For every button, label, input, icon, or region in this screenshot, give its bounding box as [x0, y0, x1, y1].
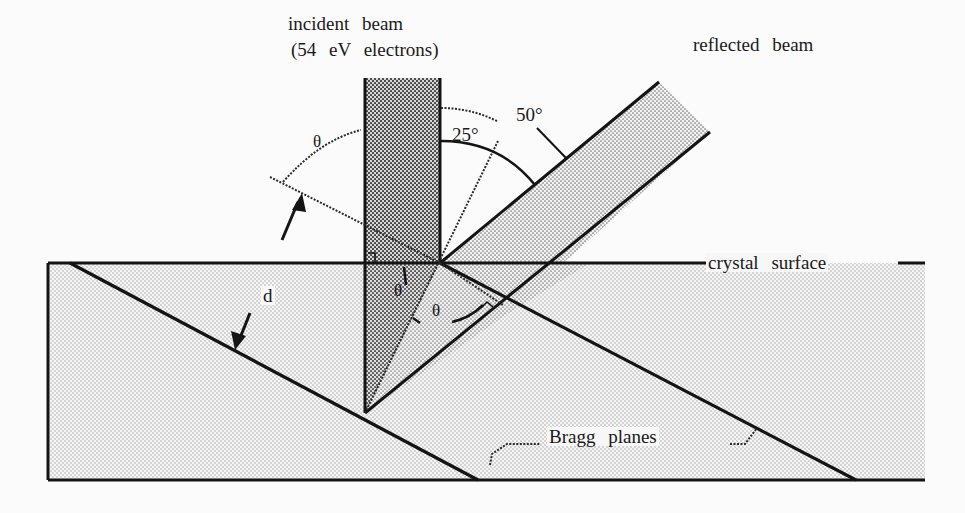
arrow-up-icon: [292, 193, 306, 212]
theta-top-label: θ: [313, 133, 321, 150]
angle-25-label: 25°: [452, 125, 479, 144]
theta-inner-left-label: θ: [394, 282, 402, 299]
angle-50-label: 50°: [516, 105, 543, 124]
crystal-surface-label: crystal surface: [706, 253, 828, 272]
reflected-beam-label: reflected beam: [693, 35, 813, 54]
theta-inner-right-label: θ: [432, 302, 440, 319]
bragg-planes-label: Bragg planes: [547, 427, 659, 446]
incident-beam-label-line2: (54 eV electrons): [291, 40, 439, 59]
incident-beam-label-line1: incident beam: [288, 14, 403, 33]
spacing-d-label: d: [261, 286, 275, 305]
